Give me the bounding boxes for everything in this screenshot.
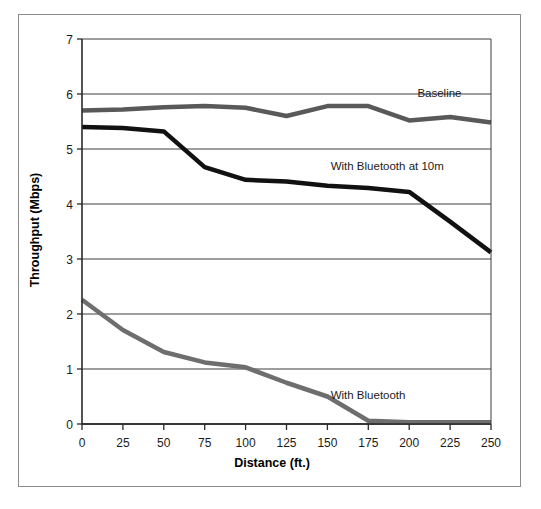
y-tick-label-3: 3 (66, 253, 73, 267)
x-tick-label-50: 50 (157, 436, 171, 450)
series-label-with-bluetooth: With Bluetooth (331, 389, 406, 401)
y-axis-title: Throughput (Mbps) (28, 173, 42, 288)
chart-frame: 0255075100125150175200225250 01234567 Ba… (18, 14, 521, 487)
y-tick-label-2: 2 (66, 308, 73, 322)
x-tick-labels: 0255075100125150175200225250 (79, 436, 502, 450)
x-tick-label-25: 25 (116, 436, 130, 450)
y-tick-labels: 01234567 (66, 33, 73, 432)
x-tick-label-200: 200 (399, 436, 419, 450)
y-tick-label-1: 1 (66, 363, 73, 377)
x-tick-label-75: 75 (198, 436, 212, 450)
series-label-baseline: Baseline (417, 87, 461, 99)
x-tick-label-175: 175 (358, 436, 378, 450)
x-axis-title: Distance (ft.) (234, 456, 310, 470)
figure-root: 0255075100125150175200225250 01234567 Ba… (0, 0, 541, 509)
throughput-vs-distance-chart: 0255075100125150175200225250 01234567 Ba… (19, 15, 520, 486)
x-tick-label-0: 0 (79, 436, 86, 450)
series-label-with-bluetooth-at-10m: With Bluetooth at 10m (331, 160, 444, 172)
series-line-baseline (82, 106, 491, 123)
y-tick-label-6: 6 (66, 88, 73, 102)
series-line-with-bluetooth (82, 300, 491, 423)
x-tick-label-250: 250 (481, 436, 501, 450)
series-labels: BaselineWith Bluetooth at 10mWith Blueto… (331, 87, 462, 402)
x-tick-label-125: 125 (276, 436, 296, 450)
x-tick-label-150: 150 (317, 436, 337, 450)
y-tick-label-7: 7 (66, 33, 73, 47)
series-line-with-bluetooth-at-10m (82, 127, 491, 252)
y-tick-label-5: 5 (66, 143, 73, 157)
y-tick-label-0: 0 (66, 418, 73, 432)
x-tick-label-225: 225 (440, 436, 460, 450)
x-tick-label-100: 100 (236, 436, 256, 450)
y-tick-label-4: 4 (66, 198, 73, 212)
plot-area (82, 106, 491, 422)
